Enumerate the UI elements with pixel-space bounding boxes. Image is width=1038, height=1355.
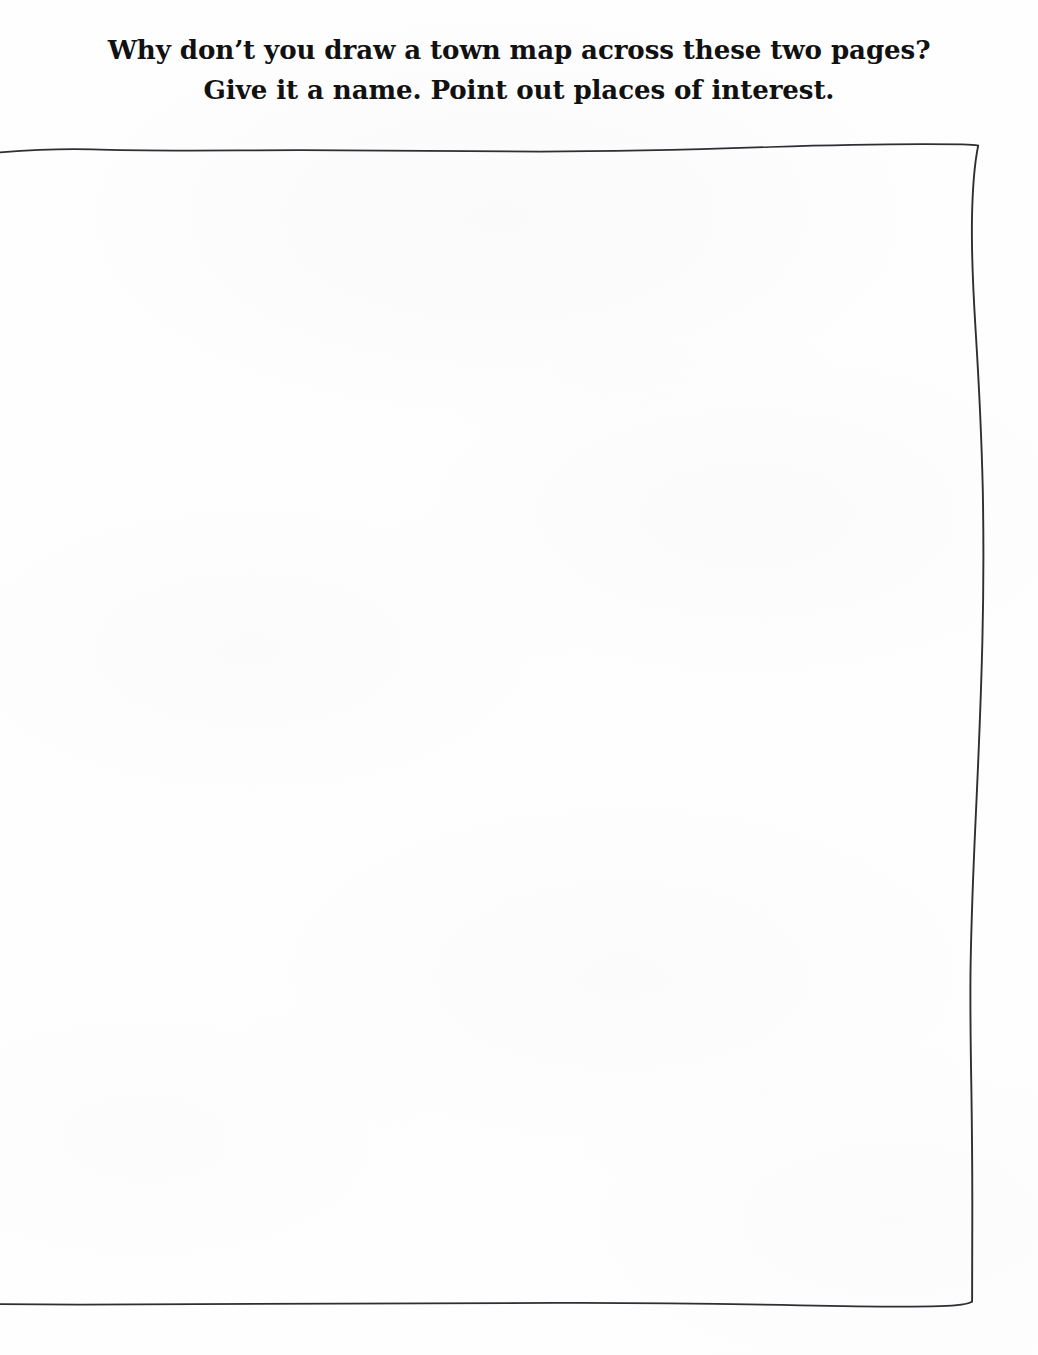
prompt-line-1: Why don’t you draw a town map across the…: [8, 30, 1030, 70]
scanned-book-page: Why don’t you draw a town map across the…: [0, 0, 1038, 1355]
drawing-area[interactable]: [0, 155, 975, 1303]
prompt-heading: Why don’t you draw a town map across the…: [0, 30, 1038, 110]
prompt-line-2: Give it a name. Point out places of inte…: [8, 70, 1030, 110]
top-border-line: [0, 144, 978, 152]
